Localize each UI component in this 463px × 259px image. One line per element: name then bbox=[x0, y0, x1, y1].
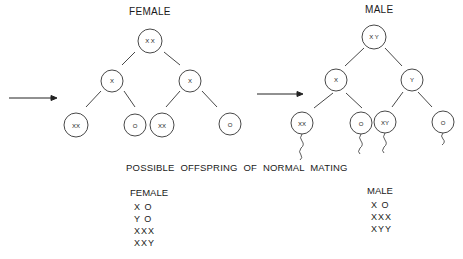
sperm-label: XY bbox=[381, 120, 389, 126]
male-offspring-heading: MALE bbox=[367, 185, 393, 197]
meiosis-diagram: X X X X XX O XX O X Y X Y XX O XY O bbox=[0, 0, 463, 259]
female-egg-label: XX bbox=[158, 123, 166, 129]
male-level1-label: Y bbox=[410, 77, 414, 83]
sperm-label: O bbox=[359, 121, 364, 127]
male-offspring-item: XYY bbox=[367, 223, 393, 235]
sperm-tail-icon bbox=[300, 133, 445, 160]
male-level1-label: X bbox=[334, 77, 338, 83]
sperm-label: O bbox=[441, 120, 446, 126]
offspring-caption: POSSIBLE OFFSPRING OF NORMAL MATING bbox=[126, 162, 348, 173]
female-offspring-heading: FEMALE bbox=[130, 187, 168, 199]
right-arrow-icon bbox=[9, 96, 57, 101]
female-offspring-item: Y O bbox=[130, 213, 168, 225]
right-arrow-icon bbox=[257, 92, 303, 97]
female-egg-label: O bbox=[133, 123, 138, 129]
sperm-label: XX bbox=[298, 121, 306, 127]
female-offspring-item: XXY bbox=[130, 237, 168, 249]
female-offspring-item: XXX bbox=[130, 225, 168, 237]
female-egg-label: O bbox=[228, 122, 233, 128]
male-offspring-list: MALE X O XXX XYY bbox=[367, 185, 393, 235]
female-offspring-item: X O bbox=[130, 201, 168, 213]
female-egg-label: XX bbox=[72, 123, 80, 129]
female-offspring-list: FEMALE X O Y O XXX XXY bbox=[130, 187, 168, 249]
female-root-label: X X bbox=[145, 38, 155, 44]
male-offspring-item: X O bbox=[367, 199, 393, 211]
male-offspring-item: XXX bbox=[367, 211, 393, 223]
female-level1-label: X bbox=[188, 78, 192, 84]
female-level1-label: X bbox=[110, 78, 114, 84]
male-root-label: X Y bbox=[369, 34, 379, 40]
